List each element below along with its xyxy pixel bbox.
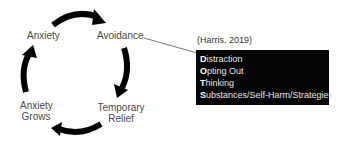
node-temporary-relief-line1: Temporary: [96, 102, 146, 113]
dots-item-substances: Substances/Self-Harm/Strategies: [200, 89, 329, 101]
dots-initial: O: [200, 66, 207, 76]
node-anxiety: Anxiety: [27, 30, 60, 41]
connector-line: [144, 38, 197, 53]
node-temporary-relief: Temporary Relief: [96, 102, 146, 124]
node-anxiety-grows-line2: Grows: [20, 111, 52, 122]
node-anxiety-grows-line1: Anxiety: [20, 100, 52, 111]
dots-rest: istraction: [207, 54, 243, 64]
arrow-anxiety-to-avoidance: [53, 9, 106, 25]
citation: (Harris, 2019): [197, 35, 252, 45]
node-avoidance: Avoidance: [97, 30, 144, 41]
dots-box: Distraction Opting Out Thinking Substanc…: [196, 50, 329, 105]
arrow-avoidance-to-relief: [114, 48, 128, 98]
node-anxiety-label: Anxiety: [27, 30, 60, 41]
dots-rest: ubstances/Self-Harm/Strategies: [206, 90, 333, 100]
dots-item-thinking: Thinking: [200, 77, 329, 89]
dots-item-opting-out: Opting Out: [200, 65, 329, 77]
arrow-relief-to-anxiety-grows: [51, 122, 101, 136]
dots-rest: pting Out: [207, 66, 244, 76]
dots-rest: hinking: [206, 78, 235, 88]
arrow-anxiety-grows-to-anxiety: [22, 45, 37, 92]
dots-item-distraction: Distraction: [200, 53, 329, 65]
node-anxiety-grows: Anxiety Grows: [20, 100, 52, 122]
node-avoidance-label: Avoidance: [97, 30, 144, 41]
node-temporary-relief-line2: Relief: [96, 113, 146, 124]
